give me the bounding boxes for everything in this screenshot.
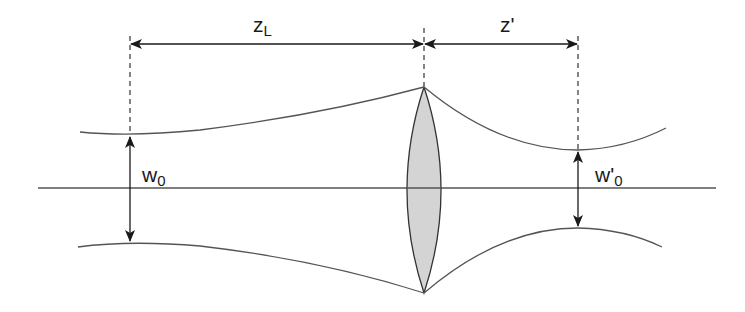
output-beam-bottom xyxy=(424,228,662,293)
label-w0-main: w xyxy=(141,163,158,186)
label-z-L-sub: L xyxy=(264,22,272,39)
beam-diagram: zL z' w0 w'0 xyxy=(0,0,745,312)
label-w0-prime-main: w' xyxy=(594,163,614,186)
label-z-prime-main: z' xyxy=(500,13,515,36)
label-z-L-main: z xyxy=(253,13,264,36)
input-beam-top xyxy=(80,87,424,134)
label-w0-prime: w'0 xyxy=(594,163,623,189)
label-w0-prime-sub: 0 xyxy=(614,172,622,189)
label-z-prime: z' xyxy=(500,13,515,36)
label-w0-sub: 0 xyxy=(157,172,165,189)
label-w0: w0 xyxy=(141,163,166,189)
lens xyxy=(407,87,441,293)
output-beam-top xyxy=(424,87,666,150)
label-z-L: zL xyxy=(253,13,272,39)
input-beam-bottom xyxy=(78,243,424,293)
